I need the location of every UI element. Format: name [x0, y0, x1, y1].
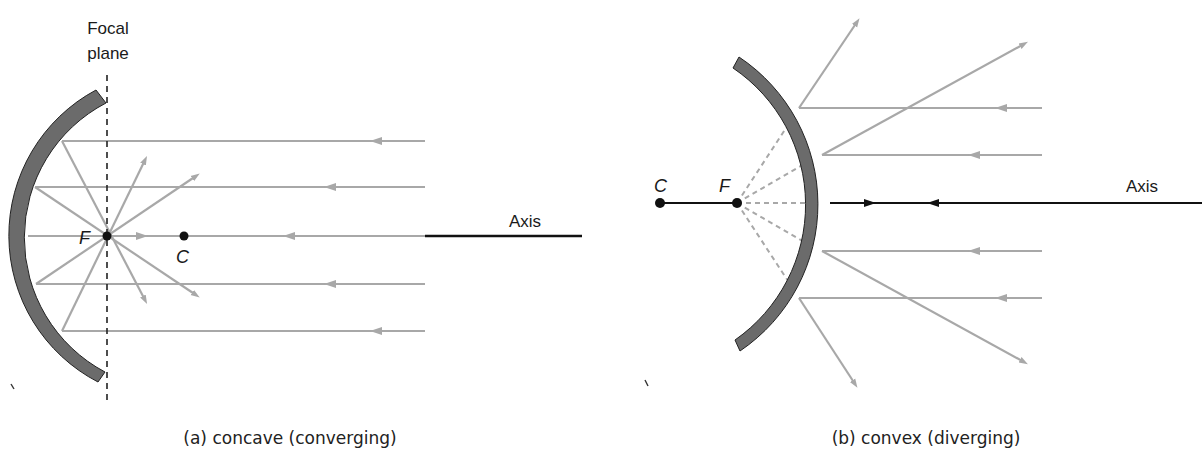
focal-point-b: [732, 198, 742, 208]
axis-arrow-in-b: [927, 199, 939, 207]
axis-label-b: Axis: [1126, 178, 1158, 195]
caption-a: (a) concave (converging): [183, 428, 396, 448]
stray-mark: [11, 384, 14, 389]
caption-b: (b) convex (diverging): [832, 428, 1021, 448]
panel-a-concave: [9, 75, 582, 400]
center-label-a: C: [176, 248, 189, 266]
stray-mark: [645, 380, 648, 386]
panel-b-convex: [655, 22, 1202, 384]
focal-point-label-a: F: [79, 229, 90, 247]
focal-point-a: [103, 232, 112, 241]
focal-plane-label-1: Focal: [87, 20, 129, 37]
center-label-b: C: [654, 177, 667, 195]
focal-point-label-b: F: [719, 177, 730, 195]
center-point-b: [655, 198, 665, 208]
axis-label-a: Axis: [509, 213, 541, 230]
center-point-a: [180, 232, 189, 241]
mirror-diagram: [0, 0, 1202, 468]
axis-arrow-out-b: [864, 199, 876, 207]
focal-plane-label-2: plane: [87, 45, 129, 62]
